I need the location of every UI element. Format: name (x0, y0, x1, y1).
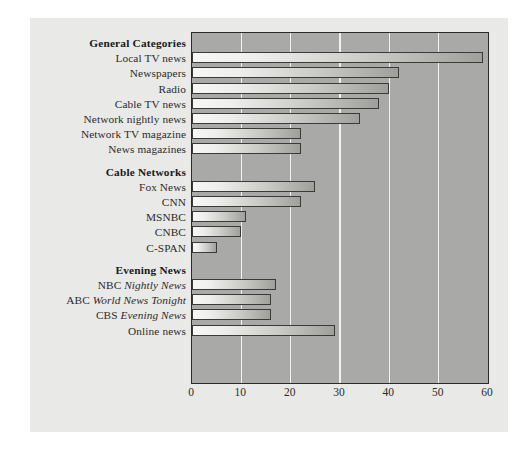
category-label: C-SPAN (30, 242, 186, 254)
bar (192, 226, 241, 237)
category-label: Fox News (30, 181, 186, 193)
category-label: Newspapers (30, 67, 186, 79)
group-heading-0: General Categories (30, 37, 186, 49)
bar (192, 181, 315, 192)
bar (192, 279, 276, 290)
x-tick-30: 30 (333, 386, 345, 398)
category-label: NBC Nightly News (30, 279, 186, 291)
horizontal-bar-chart: General CategoriesLocal TV newsNewspaper… (30, 18, 508, 432)
bar (192, 211, 246, 222)
bar (192, 196, 301, 207)
category-label: Network nightly news (30, 113, 186, 125)
category-label: CNBC (30, 226, 186, 238)
category-label: Cable TV news (30, 98, 186, 110)
x-tick-10: 10 (235, 386, 247, 398)
category-label: CBS Evening News (30, 309, 186, 321)
x-tick-20: 20 (284, 386, 296, 398)
x-tick-40: 40 (383, 386, 395, 398)
bar (192, 113, 360, 124)
scanned-page: General CategoriesLocal TV newsNewspaper… (30, 18, 508, 432)
bar (192, 242, 217, 253)
category-label: CNN (30, 196, 186, 208)
group-heading-2: Evening News (30, 264, 186, 276)
bar (192, 325, 335, 336)
bar (192, 143, 301, 154)
category-label: Local TV news (30, 52, 186, 64)
x-tick-0: 0 (188, 386, 194, 398)
bar (192, 67, 399, 78)
category-label: Network TV magazine (30, 128, 186, 140)
x-axis-tick-labels: 0102030405060 (191, 386, 491, 410)
category-label-column: General CategoriesLocal TV newsNewspaper… (30, 32, 190, 382)
bar (192, 98, 379, 109)
category-label: News magazines (30, 143, 186, 155)
group-heading-1: Cable Networks (30, 166, 186, 178)
bar-series (192, 33, 488, 383)
x-tick-60: 60 (481, 386, 493, 398)
bar (192, 83, 389, 94)
bar (192, 309, 271, 320)
category-label: ABC World News Tonight (30, 294, 186, 306)
bar (192, 294, 271, 305)
bar (192, 52, 483, 63)
x-tick-50: 50 (432, 386, 444, 398)
category-label: MSNBC (30, 211, 186, 223)
category-label: Radio (30, 83, 186, 95)
bar (192, 128, 301, 139)
category-label: Online news (30, 325, 186, 337)
plot-area (191, 32, 489, 384)
